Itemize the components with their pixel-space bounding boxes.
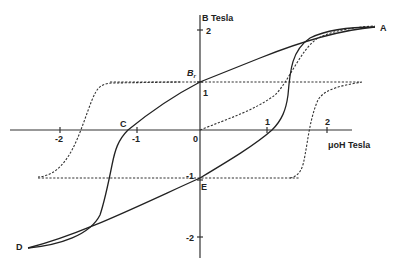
- bh-loop-solid: [28, 27, 375, 248]
- x-tick-label: 0: [193, 134, 198, 144]
- y-tick-label: 1: [203, 88, 208, 98]
- point-label-d: D: [16, 242, 23, 252]
- x-tick-label: 2: [325, 117, 330, 127]
- x-tick-label: -1: [132, 134, 140, 144]
- y-axis-label: B Tesla: [202, 13, 234, 23]
- point-label-br: Br: [187, 68, 197, 79]
- intrinsic-loop-dashed: [38, 26, 375, 178]
- x-axis-label: μoH Tesla: [328, 140, 371, 150]
- point-label-a: A: [380, 23, 387, 33]
- x-tick-label: -2: [55, 134, 63, 144]
- x-tick-label: 1: [265, 117, 270, 127]
- point-label-c: C: [120, 119, 127, 129]
- y-tick-label: -1: [186, 171, 194, 181]
- point-label-e: E: [201, 182, 207, 192]
- y-tick-label: -2: [186, 233, 194, 243]
- y-tick-label: 2: [206, 26, 211, 36]
- hysteresis-diagram: -2 -1 0 1 2 2 1 -1 -2 B Tesla μoH Tesla …: [0, 0, 406, 273]
